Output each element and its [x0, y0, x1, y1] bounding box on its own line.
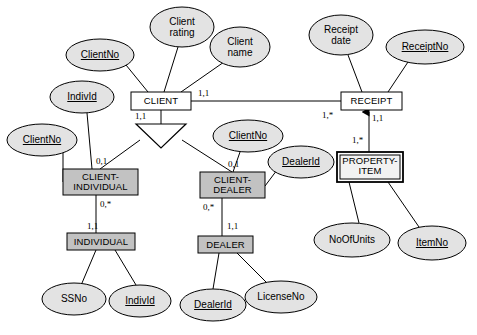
- connector-noofunits-to-propertyitem: [349, 182, 359, 223]
- connector-clientname-to-client: [181, 62, 224, 92]
- connector-individ-to-clientindividual: [87, 113, 92, 169]
- attribute-ellipse-client-no-left[interactable]: [7, 124, 77, 156]
- attribute-ellipse-indiv-id-upper[interactable]: [50, 81, 114, 113]
- connector-isa-to-clientindividual: [100, 140, 140, 169]
- attribute-ellipse-item-no[interactable]: [398, 226, 466, 260]
- entity-box-client-dealer[interactable]: [200, 172, 265, 198]
- connector-dealerid-to-dealer: [213, 253, 219, 289]
- attribute-ellipse-dealer-id-lower[interactable]: [180, 289, 246, 321]
- connector-individ-to-individual: [115, 250, 136, 285]
- connector-clientrating-to-client: [164, 47, 178, 92]
- connector-itemno-to-propertyitem: [388, 182, 419, 227]
- connector-receiptdate-to-receipt: [348, 55, 362, 92]
- connector-receiptno-to-receipt: [388, 62, 408, 92]
- attribute-ellipse-receipt-no[interactable]: [386, 30, 464, 64]
- connector-clientno-to-client: [126, 65, 148, 92]
- attribute-ellipse-no-of-units[interactable]: [314, 223, 390, 257]
- attribute-ellipse-client-name[interactable]: [210, 27, 270, 67]
- er-diagram-canvas: ClientNo Client rating Client name Indiv…: [0, 0, 477, 335]
- attribute-ellipse-client-no-mid[interactable]: [213, 120, 283, 152]
- entity-box-client-individual[interactable]: [63, 169, 138, 195]
- attribute-ellipse-ss-no[interactable]: [42, 283, 106, 315]
- attribute-ellipse-client-no-top[interactable]: [66, 39, 134, 71]
- attribute-ellipse-client-rating[interactable]: [150, 7, 214, 47]
- entity-box-receipt[interactable]: [341, 92, 402, 110]
- entity-box-property-item[interactable]: [340, 155, 400, 179]
- connector-clientno-to-clientdealer: [233, 152, 240, 172]
- isa-triangle: [136, 124, 186, 148]
- entity-box-individual[interactable]: [67, 233, 135, 250]
- attribute-ellipse-license-no[interactable]: [245, 281, 317, 313]
- entity-box-dealer[interactable]: [198, 236, 253, 253]
- connector-ssno-to-individual: [82, 250, 96, 283]
- attribute-ellipse-dealer-id-upper[interactable]: [268, 146, 334, 178]
- attribute-ellipse-indiv-id-lower[interactable]: [109, 285, 171, 317]
- attribute-ellipse-receipt-date[interactable]: [309, 15, 373, 55]
- diagram-graphics-layer: [0, 0, 477, 335]
- connector-licenseno-to-dealer: [237, 253, 267, 283]
- entity-box-client[interactable]: [131, 92, 191, 110]
